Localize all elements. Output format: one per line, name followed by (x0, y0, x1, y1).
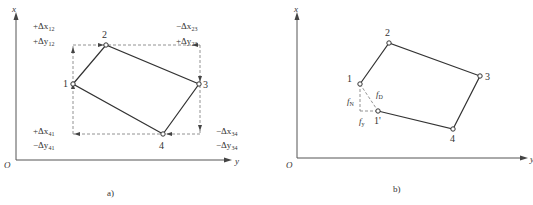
increment-label-23: −Δx23 +Δy23 (176, 21, 197, 47)
traverse-diagram: x y O 1 2 3 4 +Δx12 (0, 0, 533, 205)
station-label-1-prime: 1' (374, 115, 381, 126)
origin-label-b: O (286, 160, 293, 170)
traverse-polygon-a (73, 45, 199, 134)
station-label-4: 4 (159, 140, 164, 151)
station-1 (358, 82, 362, 86)
station-label-2: 2 (385, 27, 390, 38)
svg-text:+Δx41: +Δx41 (33, 126, 54, 137)
station-3 (197, 82, 201, 86)
svg-text:+Δx12: +Δx12 (33, 21, 54, 32)
arrow-right-icon (98, 43, 104, 47)
svg-text:−Δy34: −Δy34 (216, 140, 237, 151)
x-axis-label-b: x (293, 4, 298, 14)
station-4 (451, 127, 455, 131)
arrow-left-icon (74, 132, 80, 136)
y-axis-label-a: y (234, 156, 239, 166)
arrow-down-icon (198, 76, 202, 82)
station-label-3: 3 (203, 79, 208, 90)
station-label-3: 3 (485, 71, 490, 82)
station-3 (478, 74, 482, 78)
arrow-down-icon (198, 125, 202, 131)
y-axis-arrow-icon (224, 158, 232, 163)
svg-text:−Δx34: −Δx34 (216, 126, 237, 137)
origin-label-a: O (4, 160, 11, 170)
increment-label-34: −Δx34 −Δy34 (216, 126, 237, 151)
station-1-prime (376, 109, 380, 113)
svg-text:+Δy23: +Δy23 (176, 36, 197, 47)
increment-label-41: +Δx41 −Δy41 (33, 126, 54, 151)
station-4 (161, 132, 165, 136)
error-label-fN: fN (347, 96, 355, 107)
y-axis-arrow-icon (520, 156, 528, 161)
station-1 (71, 82, 75, 86)
station-2 (387, 41, 391, 45)
panel-a: x y O 1 2 3 4 +Δx12 (4, 4, 239, 198)
arrow-left-icon (166, 132, 172, 136)
x-axis-label-a: x (11, 4, 16, 14)
svg-text:+Δy12: +Δy12 (33, 36, 54, 47)
error-label-fy: fy (359, 116, 365, 127)
error-label-fD: fD (376, 89, 384, 100)
caption-b: b) (393, 184, 401, 194)
station-2 (104, 43, 108, 47)
arrow-up-icon (71, 47, 75, 53)
svg-text:−Δy41: −Δy41 (33, 140, 54, 151)
station-label-2: 2 (102, 29, 107, 40)
svg-text:−Δx23: −Δx23 (176, 21, 197, 32)
panel-b: x y O 1 2 3 4 1' fD fN fy b) (286, 4, 533, 194)
increment-rectangle (71, 43, 202, 136)
y-axis-label-b: y (529, 154, 533, 164)
station-label-1: 1 (63, 78, 68, 89)
increment-label-12: +Δx12 +Δy12 (33, 21, 54, 47)
caption-a: a) (107, 188, 114, 198)
station-label-1: 1 (347, 73, 352, 84)
station-label-4: 4 (450, 133, 455, 144)
